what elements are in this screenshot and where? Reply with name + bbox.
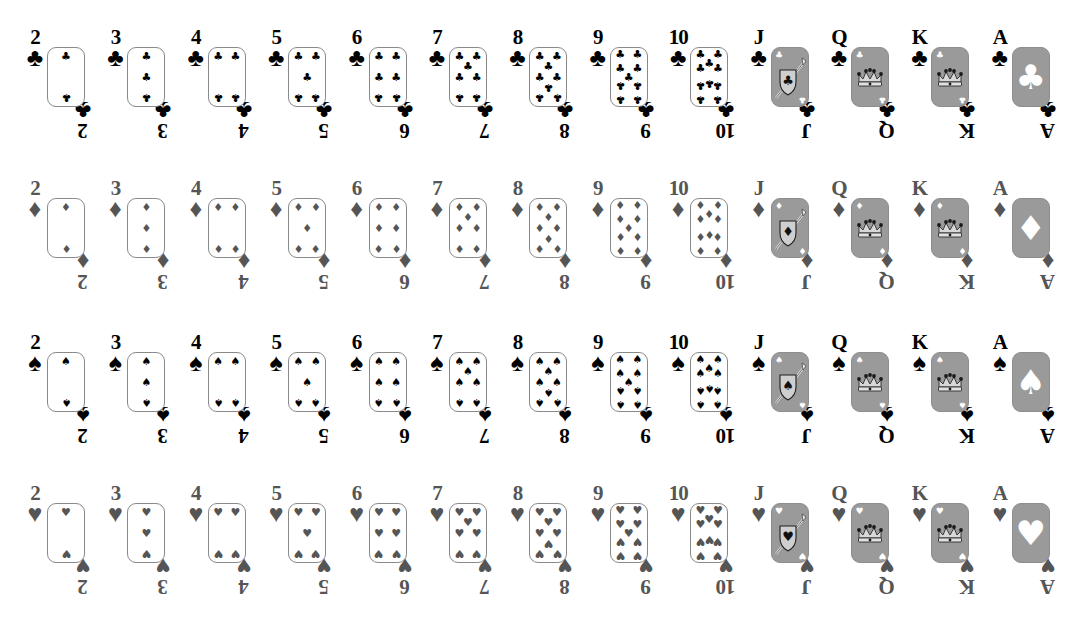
card-suit-icon: ♣: [824, 46, 854, 69]
card-body: ♥♥♥: [127, 503, 165, 563]
card-suit-icon: ♦: [904, 197, 934, 220]
card-rank-label: 2: [68, 577, 98, 597]
card-9-of-diamonds[interactable]: 9♦9♦♦♦♦♦♦♦♦♦♦: [581, 176, 665, 326]
card-j-of-hearts[interactable]: J♥J♥♥♥♥: [742, 481, 826, 631]
card-suit-icon: ♥: [744, 502, 774, 525]
suit-row-spades: 2♠2♠♠♠3♠3♠♠♠♠4♠4♠♠♠♠♠5♠5♠♠♠♠♠♠6♠6♠♠♠♠♠♠♠…: [0, 330, 1092, 480]
card-k-of-clubs[interactable]: K♣K♣♣♣: [902, 25, 986, 175]
card-rank-label: J: [792, 272, 822, 292]
card-2-of-hearts[interactable]: 2♥2♥♥♥: [18, 481, 102, 631]
card-rank-label: 4: [229, 121, 259, 141]
card-10-of-hearts[interactable]: 10♥10♥♥♥♥♥♥♥♥♥♥♥: [661, 481, 745, 631]
card-4-of-diamonds[interactable]: 4♦4♦♦♦♦♦: [179, 176, 263, 326]
card-q-of-diamonds[interactable]: Q♦Q♦♦♦: [822, 176, 906, 326]
card-7-of-diamonds[interactable]: 7♦7♦♦♦♦♦♦♦♦: [420, 176, 504, 326]
card-pip: ♥: [213, 507, 224, 518]
card-10-of-diamonds[interactable]: 10♦10♦♦♦♦♦♦♦♦♦♦♦: [661, 176, 745, 326]
card-index-top-left: A♦: [985, 178, 1015, 220]
card-body: ♣♣♣♣♣: [288, 47, 326, 107]
card-suit-icon: ♣: [502, 46, 532, 69]
card-q-of-clubs[interactable]: Q♣Q♣♣♣: [822, 25, 906, 175]
card-pip: ♣: [552, 72, 563, 83]
svg-text:♠: ♠: [782, 378, 794, 393]
card-5-of-hearts[interactable]: 5♥5♥♥♥♥♥♥: [259, 481, 343, 631]
card-3-of-spades[interactable]: 3♠3♠♠♠♠: [98, 330, 182, 480]
card-8-of-clubs[interactable]: 8♣8♣♣♣♣♣♣♣♣♣: [500, 25, 584, 175]
card-2-of-spades[interactable]: 2♠2♠♠♠: [18, 330, 102, 480]
card-suit-icon: ♣: [904, 46, 934, 69]
card-9-of-hearts[interactable]: 9♥9♥♥♥♥♥♥♥♥♥♥: [581, 481, 665, 631]
card-5-of-clubs[interactable]: 5♣5♣♣♣♣♣♣: [259, 25, 343, 175]
card-8-of-spades[interactable]: 8♠8♠♠♠♠♠♠♠♠♠: [500, 330, 584, 480]
card-pip: ♠: [615, 399, 626, 410]
card-a-of-hearts[interactable]: A♥A♥♥: [983, 481, 1067, 631]
card-suit-icon: ♣: [100, 46, 130, 69]
card-rank-label: A: [1033, 426, 1063, 446]
card-pip: ♥: [293, 548, 304, 559]
card-6-of-hearts[interactable]: 6♥6♥♥♥♥♥♥♥: [340, 481, 424, 631]
card-pip: ♥: [471, 548, 482, 559]
card-6-of-spades[interactable]: 6♠6♠♠♠♠♠♠♠: [340, 330, 424, 480]
card-suit-icon: ♣: [342, 46, 372, 69]
card-5-of-spades[interactable]: 5♠5♠♠♠♠♠♠: [259, 330, 343, 480]
card-body: ♠: [1012, 352, 1050, 412]
card-suit-icon: ♥: [20, 502, 50, 525]
card-rank-label: 6: [390, 121, 420, 141]
card-pip: ♠: [141, 397, 152, 408]
card-pip: ♠: [293, 397, 304, 408]
card-pip: ♥: [141, 507, 152, 518]
card-a-of-spades[interactable]: A♠A♠♠: [983, 330, 1067, 480]
card-index-top-left: 2♠: [20, 332, 50, 374]
card-6-of-clubs[interactable]: 6♣6♣♣♣♣♣♣♣: [340, 25, 424, 175]
card-pip: ♠: [230, 356, 241, 367]
card-j-of-spades[interactable]: J♠J♠♠♠♠: [742, 330, 826, 480]
card-a-of-clubs[interactable]: A♣A♣♣: [983, 25, 1067, 175]
card-a-of-diamonds[interactable]: A♦A♦♦: [983, 176, 1067, 326]
card-pip: ♠: [61, 397, 72, 408]
card-10-of-clubs[interactable]: 10♣10♣♣♣♣♣♣♣♣♣♣♣: [661, 25, 745, 175]
card-6-of-diamonds[interactable]: 6♦6♦♦♦♦♦♦♦: [340, 176, 424, 326]
card-q-of-hearts[interactable]: Q♥Q♥♥♥: [822, 481, 906, 631]
card-pip: ♥: [632, 536, 643, 547]
card-3-of-clubs[interactable]: 3♣3♣♣♣♣: [98, 25, 182, 175]
card-4-of-hearts[interactable]: 4♥4♥♥♥♥♥: [179, 481, 263, 631]
card-suit-icon: ♠: [181, 351, 211, 374]
card-4-of-clubs[interactable]: 4♣4♣♣♣♣♣: [179, 25, 263, 175]
card-suit-icon: ♥: [181, 502, 211, 525]
card-7-of-hearts[interactable]: 7♥7♥♥♥♥♥♥♥♥: [420, 481, 504, 631]
card-j-of-clubs[interactable]: J♣J♣♣♣♣: [742, 25, 826, 175]
card-4-of-spades[interactable]: 4♠4♠♠♠♠♠: [179, 330, 263, 480]
card-pip: ♦: [373, 202, 384, 213]
card-3-of-hearts[interactable]: 3♥3♥♥♥♥: [98, 481, 182, 631]
card-index-top-left: 2♣: [20, 27, 50, 69]
card-pip: ♥: [391, 507, 402, 518]
card-7-of-clubs[interactable]: 7♣7♣♣♣♣♣♣♣♣: [420, 25, 504, 175]
card-pip: ♦: [302, 223, 313, 234]
card-pip: ♦: [695, 231, 706, 242]
card-k-of-diamonds[interactable]: K♦K♦♦♦: [902, 176, 986, 326]
card-pip: ♥: [141, 548, 152, 559]
card-index-top-left: Q♥: [824, 483, 854, 525]
card-10-of-spades[interactable]: 10♠10♠♠♠♠♠♠♠♠♠♠♠: [661, 330, 745, 480]
card-k-of-spades[interactable]: K♠K♠♠♠: [902, 330, 986, 480]
card-5-of-diamonds[interactable]: 5♦5♦♦♦♦♦♦: [259, 176, 343, 326]
card-q-of-spades[interactable]: Q♠Q♠♠♠: [822, 330, 906, 480]
card-2-of-clubs[interactable]: 2♣2♣♣♣: [18, 25, 102, 175]
card-7-of-spades[interactable]: 7♠7♠♠♠♠♠♠♠♠: [420, 330, 504, 480]
card-9-of-clubs[interactable]: 9♣9♣♣♣♣♣♣♣♣♣♣: [581, 25, 665, 175]
card-body: ♠♠: [47, 352, 85, 412]
card-pip: ♦: [695, 214, 706, 225]
card-suit-icon: ♠: [744, 351, 774, 374]
card-8-of-hearts[interactable]: 8♥8♥♥♥♥♥♥♥♥♥: [500, 481, 584, 631]
card-3-of-diamonds[interactable]: 3♦3♦♦♦♦: [98, 176, 182, 326]
card-suit-icon: ♣: [744, 46, 774, 69]
card-k-of-hearts[interactable]: K♥K♥♥♥: [902, 481, 986, 631]
card-2-of-diamonds[interactable]: 2♦2♦♦♦: [18, 176, 102, 326]
card-index-top-left: J♥: [744, 483, 774, 525]
card-j-of-diamonds[interactable]: J♦J♦♦♦♦: [742, 176, 826, 326]
card-8-of-diamonds[interactable]: 8♦8♦♦♦♦♦♦♦♦♦: [500, 176, 584, 326]
card-body: ♠♠♠♠♠♠♠♠: [529, 352, 567, 412]
card-pip: ♠: [454, 397, 465, 408]
card-9-of-spades[interactable]: 9♠9♠♠♠♠♠♠♠♠♠♠: [581, 330, 665, 480]
card-pip: ♥: [61, 548, 72, 559]
